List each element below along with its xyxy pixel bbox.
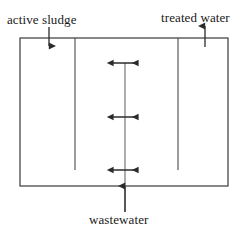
tank-outline bbox=[20, 38, 228, 186]
tank-schematic-svg bbox=[0, 0, 248, 247]
diagram-canvas: active sludge treated water wastewater bbox=[0, 0, 248, 247]
